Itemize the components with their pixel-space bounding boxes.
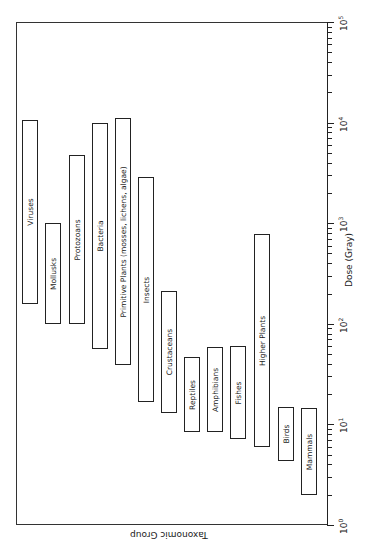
minor-tick (328, 38, 332, 39)
minor-tick (328, 175, 332, 176)
minor-tick (328, 276, 332, 277)
bar-label: Bacteria (96, 220, 105, 251)
minor-tick (328, 52, 332, 53)
range-bar: Protozoans (69, 155, 85, 324)
minor-tick (328, 239, 332, 240)
bar-label: Amphibians (211, 367, 220, 411)
range-bar: Higher Plants (254, 234, 270, 447)
minor-tick (328, 138, 332, 139)
range-bar: Insects (138, 177, 154, 402)
minor-tick (328, 434, 332, 435)
minor-tick (328, 447, 332, 448)
minor-tick (328, 354, 332, 355)
minor-tick (328, 440, 332, 441)
tick-label: 102 (337, 318, 349, 333)
minor-tick (328, 346, 332, 347)
bar-label: Viruses (26, 198, 35, 225)
major-tick (328, 424, 334, 425)
range-bar: Primitive Plants (mosses, lichens, algae… (115, 118, 131, 365)
range-bar: Mollusks (45, 223, 61, 324)
bar-label: Crustaceans (165, 329, 174, 376)
minor-tick (328, 339, 332, 340)
bar-label: Higher Plants (258, 315, 267, 365)
range-bar: Amphibians (207, 347, 223, 432)
minor-tick (328, 294, 332, 295)
minor-tick (328, 376, 332, 377)
major-tick (328, 324, 334, 325)
minor-tick (328, 364, 332, 365)
minor-tick (328, 233, 332, 234)
minor-tick (328, 44, 332, 45)
major-tick (328, 223, 334, 224)
range-bar: Fishes (230, 346, 246, 439)
minor-tick (328, 263, 332, 264)
major-tick (328, 525, 334, 526)
range-bar: Birds (278, 407, 294, 461)
major-tick (328, 22, 334, 23)
range-bar: Viruses (22, 120, 38, 304)
range-bar: Reptiles (184, 357, 200, 432)
minor-tick (328, 32, 332, 33)
minor-tick (328, 477, 332, 478)
group-axis-label: Taxonomic Group (130, 530, 208, 540)
range-bar: Crustaceans (161, 291, 177, 413)
tick-label: 103 (337, 217, 349, 232)
major-tick (328, 123, 334, 124)
bar-label: Mammals (305, 433, 314, 469)
bar-label: Birds (282, 425, 291, 444)
range-bar: Bacteria (92, 123, 108, 349)
minor-tick (328, 145, 332, 146)
bar-label: Reptiles (188, 380, 197, 410)
bar-label: Mollusks (49, 257, 58, 289)
minor-tick (328, 153, 332, 154)
minor-tick (328, 27, 332, 28)
minor-tick (328, 132, 332, 133)
bar-label: Protozoans (73, 219, 82, 260)
minor-tick (328, 228, 332, 229)
bar-label: Fishes (234, 381, 243, 404)
minor-tick (328, 92, 332, 93)
minor-tick (328, 193, 332, 194)
range-bar: Mammals (301, 408, 317, 495)
minor-tick (328, 62, 332, 63)
minor-tick (328, 495, 332, 496)
dose-axis (327, 22, 328, 526)
minor-tick (328, 163, 332, 164)
dose-axis-label: Dose (Gray) (344, 233, 354, 287)
minor-tick (328, 334, 332, 335)
minor-tick (328, 328, 332, 329)
tick-label: 101 (337, 418, 349, 433)
minor-tick (328, 429, 332, 430)
bar-label: Primitive Plants (mosses, lichens, algae… (119, 166, 128, 317)
minor-tick (328, 394, 332, 395)
minor-tick (328, 127, 332, 128)
minor-tick (328, 246, 332, 247)
tick-label: 100 (337, 519, 349, 534)
tick-label: 104 (337, 117, 349, 132)
minor-tick (328, 464, 332, 465)
minor-tick (328, 75, 332, 76)
minor-tick (328, 253, 332, 254)
minor-tick (328, 455, 332, 456)
tick-label: 105 (337, 16, 349, 31)
bar-label: Insects (142, 276, 151, 302)
